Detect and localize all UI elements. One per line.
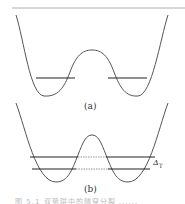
figure-caption: 图 5.1 双势阱中的隧穿分裂 ...... (15, 196, 138, 204)
panel-a-label: (a) (84, 101, 96, 111)
panel-b-label: (b) (84, 184, 97, 194)
tunnel-splitting-label: ΔT (153, 158, 163, 169)
panel-b-potential-curve (16, 103, 168, 182)
splitting-subscript: T (159, 162, 163, 169)
panel-a-potential-curve (16, 15, 168, 96)
